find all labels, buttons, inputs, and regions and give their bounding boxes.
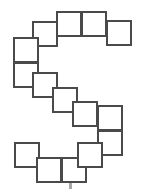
- tile-diag-3: [72, 101, 98, 127]
- tile-top-right: [106, 20, 132, 46]
- tile-top-center-left: [56, 11, 82, 37]
- tile-bottom-right: [77, 142, 103, 168]
- tile-right-upper: [97, 105, 123, 131]
- tile-top-center-right: [81, 11, 107, 37]
- scan-artifact-dot: [69, 183, 72, 189]
- tile-left-upper: [13, 37, 39, 63]
- figure-canvas: [0, 0, 141, 192]
- tile-bottom-mid-left: [36, 157, 62, 183]
